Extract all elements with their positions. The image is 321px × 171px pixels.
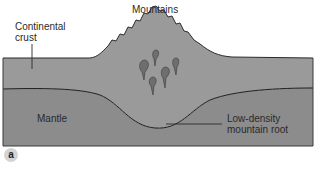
label-continental-crust-2: crust — [15, 32, 37, 43]
label-mantle: Mantle — [37, 113, 67, 124]
label-root-1: Low-density — [227, 113, 280, 124]
mountain-root-diagram: Mountains Continental crust Mantle Low-d… — [0, 0, 321, 171]
label-root-2: mountain root — [227, 124, 288, 135]
label-mountains: Mountains — [132, 4, 178, 15]
label-continental-crust-1: Continental — [15, 21, 66, 32]
panel-badge: a — [4, 148, 18, 162]
